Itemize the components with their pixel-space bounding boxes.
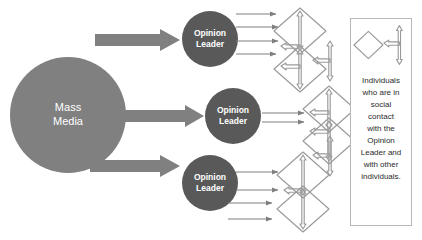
media-arrow-1 xyxy=(95,29,180,51)
influence-arrow-group-1 xyxy=(236,14,278,54)
legend-line-4: contact xyxy=(368,112,394,121)
legend-line-3: social xyxy=(371,100,391,109)
media-arrow-2 xyxy=(124,105,204,127)
individual-cluster-2 xyxy=(303,86,355,164)
double-headed-arrow-icon xyxy=(384,26,402,65)
individual-cluster-1 xyxy=(274,8,326,92)
legend-line-2: who are in xyxy=(363,88,400,97)
legend-description: Individuals who are in social contact wi… xyxy=(353,75,409,183)
influence-arrow-group-2 xyxy=(262,113,304,122)
individual-connector-1 xyxy=(313,41,333,81)
mass-media-node[interactable]: Mass Media xyxy=(10,57,126,173)
legend-line-1: Individuals xyxy=(362,76,400,85)
mass-media-label-line-2: Media xyxy=(53,115,83,129)
legend-line-6: Opinion xyxy=(367,136,395,145)
legend-box: Individuals who are in social contact wi… xyxy=(350,18,412,226)
individual-cluster-3 xyxy=(277,152,329,232)
legend-line-8: with other xyxy=(364,160,399,169)
opinion-leader-node-1[interactable]: Opinion Leader xyxy=(182,11,238,67)
legend-icon-row xyxy=(351,23,411,67)
legend-line-9: individuals. xyxy=(361,172,401,181)
opinion-leader-2-label-line-1: Opinion xyxy=(217,105,249,116)
opinion-leader-3-label-line-2: Leader xyxy=(196,183,224,194)
opinion-leader-node-3[interactable]: Opinion Leader xyxy=(182,155,238,211)
opinion-leader-2-label-line-2: Leader xyxy=(219,116,247,127)
opinion-leader-node-2[interactable]: Opinion Leader xyxy=(205,88,261,144)
diagram-canvas: Mass Media Opinion Leader Opinion Leader… xyxy=(0,0,422,240)
mass-media-label-line-1: Mass xyxy=(55,101,81,115)
diamond-icon xyxy=(354,31,383,58)
legend-line-7: Leader and xyxy=(361,148,401,157)
legend-line-5: with the xyxy=(367,124,395,133)
opinion-leader-1-label-line-2: Leader xyxy=(196,39,224,50)
opinion-leader-3-label-line-1: Opinion xyxy=(194,172,226,183)
opinion-leader-1-label-line-1: Opinion xyxy=(194,28,226,39)
individual-connector-2 xyxy=(313,136,333,176)
